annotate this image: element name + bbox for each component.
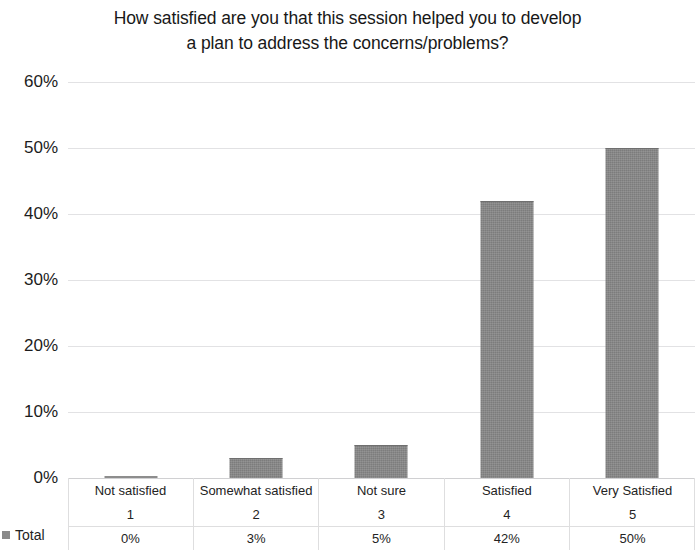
y-axis-tick-label: 20% — [0, 337, 58, 354]
table-cell-category: Very Satisfied — [570, 478, 695, 503]
bar-slot — [193, 82, 318, 478]
chart-title-line-1: How satisfied are you that this session … — [40, 6, 655, 31]
table-cell-number: 3 — [319, 503, 444, 526]
bar-slot — [68, 82, 193, 478]
chart-container: How satisfied are you that this session … — [0, 0, 695, 550]
legend-swatch-icon — [2, 531, 10, 539]
y-axis-tick-label: 0% — [0, 469, 58, 486]
bar-slot — [444, 82, 569, 478]
y-axis: 60%50%40%30%20%10%0% — [0, 0, 58, 550]
chart-title: How satisfied are you that this session … — [40, 6, 655, 56]
table-cell-category: Somewhat satisfied — [193, 478, 318, 503]
bar[interactable] — [606, 148, 659, 478]
data-table: Not satisfiedSomewhat satisfiedNot sureS… — [68, 478, 695, 550]
table-cell-total: 3% — [193, 526, 318, 550]
table-row-total: 0%3%5%42%50% — [68, 526, 695, 550]
table-cell-total: 42% — [444, 526, 569, 550]
table-cell-total: 50% — [570, 526, 695, 550]
bar[interactable] — [230, 458, 283, 478]
y-axis-tick-label: 10% — [0, 403, 58, 420]
table-cell-total: 0% — [68, 526, 193, 550]
bar[interactable] — [480, 201, 533, 478]
bar-slot — [570, 82, 695, 478]
bar[interactable] — [355, 445, 408, 478]
table-cell-number: 5 — [570, 503, 695, 526]
y-axis-tick-label: 60% — [0, 73, 58, 90]
y-axis-tick-label: 40% — [0, 205, 58, 222]
bar-series-total — [68, 82, 695, 478]
table-cell-category: Not sure — [319, 478, 444, 503]
legend-total: Total — [2, 523, 66, 547]
legend-label: Total — [15, 527, 45, 543]
chart-title-line-2: a plan to address the concerns/problems? — [40, 31, 655, 56]
table-cell-total: 5% — [319, 526, 444, 550]
table-cell-number: 4 — [444, 503, 569, 526]
table-cell-number: 1 — [68, 503, 193, 526]
bar-slot — [319, 82, 444, 478]
table-cell-category: Satisfied — [444, 478, 569, 503]
y-axis-tick-label: 30% — [0, 271, 58, 288]
table-row-categories: Not satisfiedSomewhat satisfiedNot sureS… — [68, 478, 695, 503]
table-cell-number: 2 — [193, 503, 318, 526]
y-axis-tick-label: 50% — [0, 139, 58, 156]
table-cell-category: Not satisfied — [68, 478, 193, 503]
table-row-numbers: 12345 — [68, 503, 695, 526]
